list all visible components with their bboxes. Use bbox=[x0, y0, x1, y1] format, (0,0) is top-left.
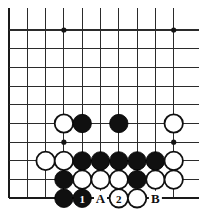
black-stone-2 bbox=[110, 114, 128, 132]
stone-move-number-1: 1 bbox=[79, 193, 85, 205]
black-stone-7 bbox=[91, 152, 109, 170]
white-stone-14 bbox=[91, 170, 109, 188]
black-stone-8 bbox=[110, 152, 128, 170]
white-stone-17 bbox=[146, 170, 164, 188]
white-stone-0 bbox=[55, 114, 73, 132]
black-stone-9 bbox=[128, 152, 146, 170]
black-stone-10 bbox=[146, 152, 164, 170]
black-stone-6 bbox=[73, 152, 91, 170]
go-board-canvas: 12 AB bbox=[0, 0, 199, 224]
white-stone-3 bbox=[165, 114, 183, 132]
white-stone-4 bbox=[36, 152, 54, 170]
black-stone-12 bbox=[55, 170, 73, 188]
star-point-0 bbox=[61, 27, 66, 32]
white-stone-18 bbox=[165, 170, 183, 188]
white-stone-13 bbox=[73, 170, 91, 188]
white-stone-5 bbox=[55, 152, 73, 170]
star-point-3 bbox=[171, 140, 176, 145]
black-stone-19 bbox=[55, 189, 73, 207]
point-label-A: A bbox=[96, 191, 106, 206]
black-stone-16 bbox=[128, 170, 146, 188]
star-point-2 bbox=[61, 140, 66, 145]
star-point-1 bbox=[171, 27, 176, 32]
point-label-B: B bbox=[151, 191, 160, 206]
white-stone-15 bbox=[110, 170, 128, 188]
white-stone-11 bbox=[165, 152, 183, 170]
black-stone-1 bbox=[73, 114, 91, 132]
stone-move-number-2: 2 bbox=[116, 193, 122, 205]
white-stone-22 bbox=[128, 189, 146, 207]
go-board-diagram: 12 AB bbox=[0, 0, 199, 224]
